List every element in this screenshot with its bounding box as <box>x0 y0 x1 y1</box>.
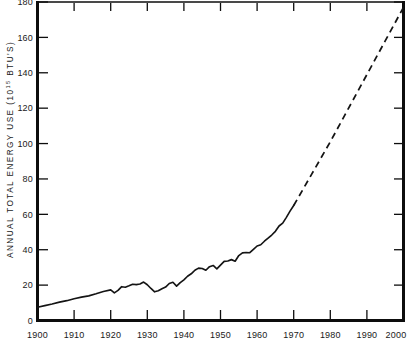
y-tick-label: 20 <box>23 280 33 290</box>
x-tick-label: 1910 <box>64 330 85 340</box>
x-tick-label: 1920 <box>100 330 121 340</box>
x-tick-label: 1940 <box>173 330 194 340</box>
y-tick-label: 120 <box>17 103 33 113</box>
x-tick-label: 1990 <box>356 330 377 340</box>
y-tick-label: 60 <box>23 210 33 220</box>
y-tick-label: 0 <box>28 316 33 326</box>
y-tick-label: 160 <box>17 33 33 43</box>
x-tick-label: 1980 <box>320 330 341 340</box>
x-tick-label: 1930 <box>137 330 158 340</box>
energy-use-line-chart: 020406080100120140160180 190019101920193… <box>0 0 412 353</box>
y-axis-title-text: ANNUAL TOTAL ENERGY USE (1015 BTU'S) <box>5 41 15 258</box>
chart-figure: 020406080100120140160180 190019101920193… <box>0 0 412 353</box>
x-tick-label: 2000 <box>386 330 407 340</box>
x-tick-label: 1970 <box>283 330 304 340</box>
y-tick-label: 100 <box>17 139 33 149</box>
x-tick-label: 1960 <box>247 330 268 340</box>
x-tick-label: 1900 <box>27 330 48 340</box>
y-tick-label: 140 <box>17 68 33 78</box>
chart-background <box>0 0 412 353</box>
y-tick-label: 40 <box>23 245 33 255</box>
x-tick-label: 1950 <box>210 330 231 340</box>
y-axis-title: ANNUAL TOTAL ENERGY USE (1015 BTU'S) <box>5 41 15 258</box>
y-tick-label: 80 <box>23 174 33 184</box>
y-tick-label: 180 <box>17 0 33 7</box>
